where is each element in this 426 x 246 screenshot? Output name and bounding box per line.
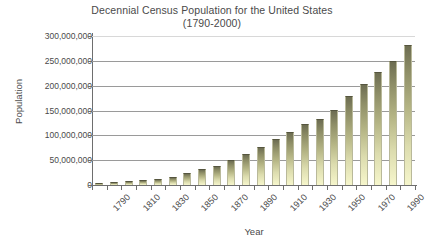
x-tick-mark [239, 186, 240, 190]
gridline [92, 61, 415, 62]
x-tick-label: 1830 [170, 192, 191, 213]
bar [301, 124, 309, 185]
bar [154, 179, 162, 185]
bar [345, 96, 353, 185]
x-tick-mark [268, 186, 269, 190]
y-tick-label: 0 [8, 180, 92, 190]
x-tick-mark [298, 186, 299, 190]
y-tick-label: 300,000,000 [8, 31, 92, 41]
x-tick-label: 1970 [375, 192, 396, 213]
x-tick-label: 1850 [199, 192, 220, 213]
x-tick-label: 1870 [229, 192, 250, 213]
bar [227, 160, 235, 185]
bar [286, 132, 294, 185]
bar [242, 154, 250, 185]
bar [272, 139, 280, 185]
x-tick-label: 1810 [141, 192, 162, 213]
x-tick-mark [312, 186, 313, 190]
x-tick-mark [254, 186, 255, 190]
bar [316, 119, 324, 185]
y-tick-label: 150,000,000 [8, 106, 92, 116]
x-tick-label: 1950 [346, 192, 367, 213]
x-tick-mark [342, 186, 343, 190]
x-tick-label: 1990 [405, 192, 426, 213]
x-tick-label: 1910 [287, 192, 308, 213]
y-tick-label: 200,000,000 [8, 81, 92, 91]
x-tick-mark [195, 186, 196, 190]
x-tick-mark [151, 186, 152, 190]
x-axis-title: Year [92, 226, 416, 237]
bar [374, 72, 382, 185]
y-tick-label: 50,000,000 [8, 155, 92, 165]
x-tick-mark [356, 186, 357, 190]
y-tick-label: 100,000,000 [8, 130, 92, 140]
gridline [92, 36, 415, 37]
x-tick-mark [180, 186, 181, 190]
x-tick-mark [224, 186, 225, 190]
x-tick-label: 1790 [111, 192, 132, 213]
plot-area [92, 36, 415, 185]
bar [360, 84, 368, 185]
x-tick-mark [283, 186, 284, 190]
bar [330, 110, 338, 185]
y-axis-ticks: 050,000,000100,000,000150,000,000200,000… [0, 0, 92, 246]
y-tick-label: 250,000,000 [8, 56, 92, 66]
x-tick-mark [165, 186, 166, 190]
x-tick-mark [386, 186, 387, 190]
x-tick-mark [121, 186, 122, 190]
bar [183, 173, 191, 185]
x-tick-mark [415, 186, 416, 190]
x-tick-mark [371, 186, 372, 190]
x-tick-mark [400, 186, 401, 190]
bar [110, 182, 118, 185]
bar [257, 147, 265, 185]
bar [389, 61, 397, 185]
bar [198, 169, 206, 185]
x-tick-label: 1930 [317, 192, 338, 213]
x-tick-mark [327, 186, 328, 190]
x-tick-label: 1890 [258, 192, 279, 213]
bar [169, 177, 177, 185]
bar [139, 180, 147, 185]
bar [213, 166, 221, 185]
x-tick-mark [107, 186, 108, 190]
x-axis-tick-labels: 1790181018301850187018901910193019501970… [92, 192, 416, 226]
bar [125, 181, 133, 185]
bar [404, 45, 412, 185]
x-tick-mark [136, 186, 137, 190]
bar [95, 183, 103, 185]
x-tick-mark [209, 186, 210, 190]
x-tick-mark [92, 186, 93, 190]
